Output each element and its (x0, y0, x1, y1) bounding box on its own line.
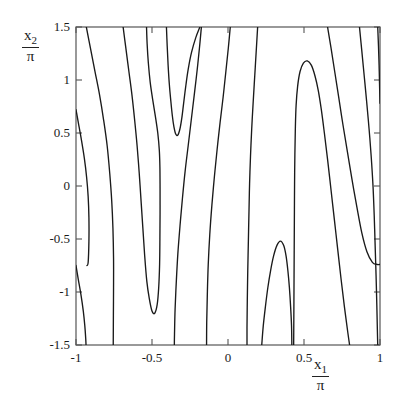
x-tick-label: 0.5 (284, 350, 324, 366)
y-tick-label: 0.5 (24, 125, 70, 141)
x-tick-label: 1 (360, 350, 400, 366)
y-axis-label-denominator: π (22, 48, 39, 64)
x-tick-label: 0 (208, 350, 248, 366)
y-tick-label: 1 (24, 72, 70, 88)
x-tick-label: -0.5 (132, 350, 172, 366)
y-axis-label-subscript: 2 (32, 34, 38, 46)
plot-frame (76, 27, 380, 345)
y-tick-label: 0 (24, 178, 70, 194)
y-tick-label: -1 (24, 284, 70, 300)
y-tick-label: 1.5 (24, 19, 70, 35)
contour-figure: x2 π x1 π -1-0.500.511.510.50-0.5-1-1.5 (0, 0, 405, 411)
x-axis-label-denominator: π (312, 377, 329, 393)
y-tick-label: -0.5 (24, 231, 70, 247)
y-tick-label: -1.5 (24, 337, 70, 353)
